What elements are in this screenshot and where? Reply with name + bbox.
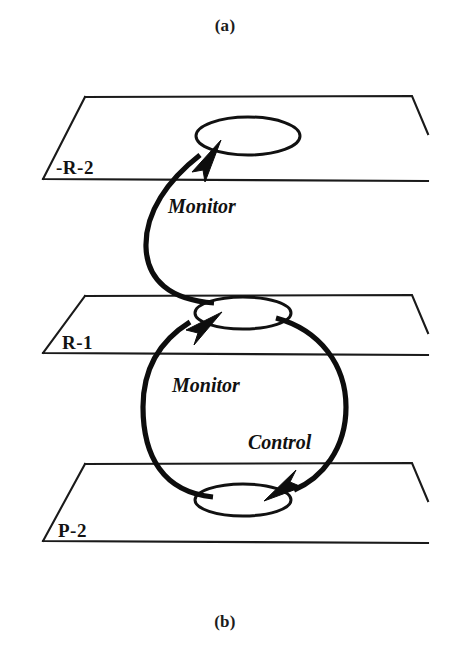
edge-label-monitor-upper-text: Monitor (167, 195, 236, 217)
plane-label-bottom: P-2 (58, 520, 87, 541)
figure-caption-top: (a) (0, 16, 450, 36)
edge-path-monitor-lower (143, 322, 213, 497)
edge-group-monitor-upper (146, 140, 221, 303)
plane-label-middle-text: R-1 (62, 332, 93, 353)
figure-container: (a) -R-2 R-1 P-2 (0, 0, 450, 648)
layered-planes-diagram: -R-2 R-1 P-2 Mon (0, 0, 450, 648)
arrowhead-icon-monitor-lower (186, 312, 222, 345)
plane-label-top: -R-2 (56, 157, 94, 178)
plane-group-bottom: P-2 (43, 463, 428, 543)
node-ellipse-top (196, 117, 300, 155)
plane-outline-top (43, 96, 428, 181)
edge-group-monitor-lower (143, 312, 222, 497)
edge-label-monitor-lower: Monitor (171, 374, 240, 396)
edge-label-monitor-upper: Monitor (167, 195, 236, 217)
plane-outline-middle (43, 295, 428, 355)
plane-group-middle: R-1 (43, 295, 428, 355)
plane-outline-bottom (43, 463, 428, 543)
figure-caption-bottom: (b) (0, 612, 450, 632)
edge-label-monitor-lower-text: Monitor (171, 374, 240, 396)
plane-label-middle: R-1 (62, 332, 93, 353)
edge-group-control (264, 318, 346, 501)
plane-group-top: -R-2 (43, 96, 428, 181)
plane-label-bottom-text: P-2 (58, 520, 87, 541)
edge-label-control-text: Control (248, 431, 312, 453)
edge-label-control: Control (248, 431, 312, 453)
plane-label-top-text: -R-2 (56, 157, 94, 178)
